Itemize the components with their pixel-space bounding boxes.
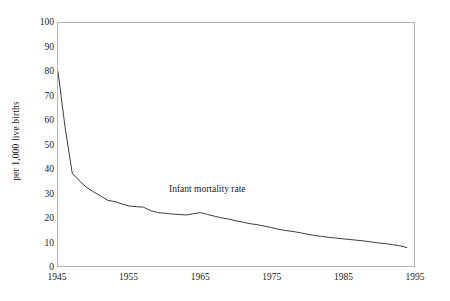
- infant-mortality-line: [58, 72, 407, 248]
- x-axis-tick-label: 1955: [107, 272, 151, 283]
- x-axis-tick-label: 1985: [321, 272, 365, 283]
- x-axis-tick-label: 1975: [250, 272, 294, 283]
- x-axis-tick-label: 1965: [178, 272, 222, 283]
- series-annotation-label: Infant mortality rate: [169, 184, 246, 194]
- x-axis-tick-label: 1995: [393, 272, 437, 283]
- infant-mortality-chart: per 1,000 live births 100908070605040302…: [0, 0, 450, 301]
- x-axis-tick-label: 1945: [35, 272, 79, 283]
- series-canvas: [58, 23, 414, 266]
- plot-area: [57, 22, 415, 267]
